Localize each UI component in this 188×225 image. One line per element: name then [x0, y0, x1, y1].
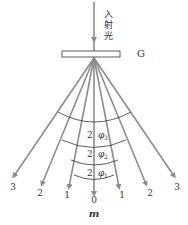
order-right-2: 2 — [147, 188, 153, 198]
grating-label: G — [137, 48, 145, 59]
svg-text:1: 1 — [104, 172, 108, 179]
incident-label-3: 光 — [104, 30, 113, 41]
order-left-2: 2 — [37, 188, 43, 198]
order-right-1: 1 — [119, 190, 125, 200]
angle-label-1: 2 φ 1 — [87, 168, 108, 179]
angle-label-3: 2 φ 3 — [87, 130, 108, 141]
diffraction-grating-diagram: 入 射 光 G 2 φ 3 2 φ 2 2 φ 1 3 2 1 0 1 2 3 … — [0, 0, 188, 225]
order-left-3: 3 — [10, 182, 16, 192]
svg-text:2: 2 — [87, 149, 93, 159]
angle-label-2: 2 φ 2 — [87, 149, 108, 160]
incident-label-1: 入 — [104, 9, 113, 19]
order-axis-label: m — [89, 208, 100, 219]
svg-text:3: 3 — [104, 134, 108, 141]
order-center-0: 0 — [91, 195, 97, 205]
incident-label-2: 射 — [104, 19, 113, 30]
order-right-3: 3 — [174, 182, 180, 192]
svg-text:2: 2 — [87, 168, 93, 178]
svg-text:2: 2 — [104, 153, 108, 160]
grating — [62, 51, 120, 57]
svg-text:2: 2 — [87, 130, 93, 140]
diffracted-rays — [14, 58, 174, 194]
order-left-1: 1 — [64, 190, 70, 200]
